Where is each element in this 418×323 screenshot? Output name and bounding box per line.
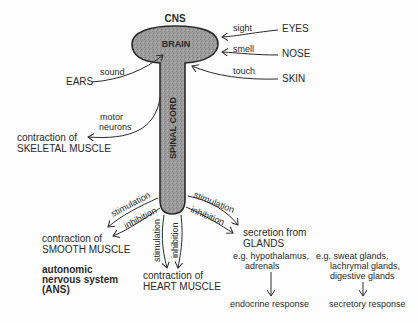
organ-label-skin: SKIN <box>282 73 305 84</box>
sense-label-sight: sight <box>233 23 253 33</box>
heart-line1: contraction of <box>143 270 203 281</box>
heart-line2: HEART MUSCLE <box>143 281 221 292</box>
organ-label-eyes: EYES <box>282 23 309 34</box>
sense-label-smell: smell <box>233 44 254 54</box>
output-glands: stimulation inhibition secretion from GL… <box>186 190 306 249</box>
cns-diagram: CNS BRAIN SPINAL CORD sight EYES smell N… <box>0 0 418 323</box>
endocrine-eg2: adrenals <box>245 261 280 271</box>
endocrine-response: endocrine response <box>230 299 309 309</box>
secretory-response: secretory response <box>329 299 406 309</box>
secretory-eg1: e.g. sweat glands, <box>316 251 389 261</box>
ans-line3: (ANS) <box>42 284 70 295</box>
secretory-eg3: digestive glands <box>330 271 395 281</box>
endocrine-branch: e.g. hypothalamus, adrenals endocrine re… <box>230 251 309 309</box>
glands-line1: secretion from <box>243 227 306 238</box>
output-skeletal: motor neurons contraction of SKELETAL MU… <box>17 98 160 154</box>
organ-label-ears: EARS <box>66 76 94 87</box>
brain-label: BRAIN <box>162 39 191 49</box>
heart-stimulation: stimulation <box>152 219 162 262</box>
cns-label: CNS <box>164 13 185 24</box>
smooth-line1: contraction of <box>42 233 102 244</box>
glands-line2: GLANDS <box>243 238 284 249</box>
input-eyes: sight EYES <box>222 23 309 37</box>
skeletal-line2: SKELETAL MUSCLE <box>17 143 111 154</box>
output-smooth: stimulation inhibition contraction of SM… <box>42 190 160 255</box>
neurons-label: neurons <box>99 122 132 132</box>
smooth-line2: SMOOTH MUSCLE <box>42 244 131 255</box>
organ-label-nose: NOSE <box>282 48 311 59</box>
secretory-eg2: lachrymal glands, <box>330 261 400 271</box>
motor-label: motor <box>100 112 123 122</box>
ans-label: autonomic nervous system (ANS) <box>42 264 118 295</box>
output-heart: stimulation inhibition contraction of HE… <box>143 215 221 292</box>
spinal-cord-label: SPINAL CORD <box>168 97 178 159</box>
secretory-branch: e.g. sweat glands, lachrymal glands, dig… <box>316 251 406 309</box>
heart-inhibition: inhibition <box>170 222 180 258</box>
input-skin: touch SKIN <box>192 66 305 84</box>
sense-label-touch: touch <box>233 66 255 76</box>
skeletal-line1: contraction of <box>17 132 77 143</box>
input-nose: smell NOSE <box>222 44 311 59</box>
sense-label-sound: sound <box>100 67 125 77</box>
endocrine-eg1: e.g. hypothalamus, <box>233 251 309 261</box>
